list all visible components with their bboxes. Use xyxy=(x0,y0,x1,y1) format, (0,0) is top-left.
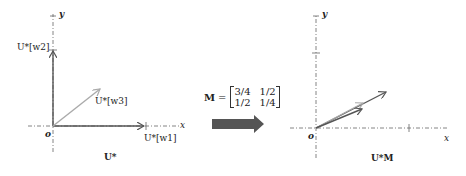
left-caption: U* xyxy=(104,152,117,162)
label-w1: U*[w1] xyxy=(144,133,177,143)
vector-w2M-arrow xyxy=(316,109,362,128)
label-w3: U*[w3] xyxy=(95,96,128,106)
right-x-label: x xyxy=(444,133,449,143)
left-y-label: y xyxy=(59,9,64,19)
matrix-bracket: 3/4 1/2 1/2 1/4 xyxy=(230,86,279,108)
matrix-name: M xyxy=(204,92,215,103)
label-w2: U*[w2] xyxy=(17,42,50,52)
left-origin-label: o xyxy=(45,129,51,139)
equals-sign: = xyxy=(218,92,226,103)
right-y-label: y xyxy=(322,9,327,19)
transform-arrow-icon xyxy=(212,115,264,133)
matrix-cell: 1/2 xyxy=(234,97,250,108)
vector-w3M-arrow xyxy=(316,103,363,128)
right-caption: U*M xyxy=(371,153,394,163)
matrix-cell: 3/4 xyxy=(234,86,250,97)
matrix-cell: 1/2 xyxy=(260,86,276,97)
vector-w3-arrow xyxy=(53,89,100,126)
matrix-cell: 1/4 xyxy=(260,97,276,108)
right-origin-label: o xyxy=(308,131,314,141)
matrix-equation: M = 3/4 1/2 1/2 1/4 xyxy=(204,86,280,108)
left-x-label: x xyxy=(180,120,185,130)
